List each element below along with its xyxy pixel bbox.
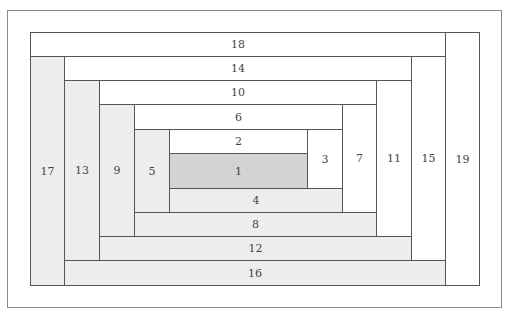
block-2: 2 [169, 129, 308, 154]
block-10: 10 [99, 80, 377, 105]
block-label: 6 [235, 111, 242, 124]
block-16: 16 [64, 260, 446, 286]
block-label: 7 [356, 152, 363, 165]
block-label: 3 [322, 153, 329, 166]
block-18: 18 [30, 32, 446, 57]
block-label: 18 [231, 38, 245, 51]
block-label: 10 [231, 86, 245, 99]
block-11: 11 [376, 80, 412, 237]
block-5: 5 [134, 129, 170, 213]
block-12: 12 [99, 236, 412, 261]
block-label: 9 [114, 164, 121, 177]
block-label: 8 [252, 218, 259, 231]
block-1: 1 [169, 153, 308, 189]
block-3: 3 [307, 129, 343, 189]
block-14: 14 [64, 56, 412, 81]
block-9: 9 [99, 104, 135, 237]
block-label: 17 [41, 165, 55, 178]
block-8: 8 [134, 212, 377, 237]
block-label: 14 [231, 62, 245, 75]
block-label: 1 [235, 165, 242, 178]
block-15: 15 [411, 56, 446, 261]
block-label: 16 [248, 267, 262, 280]
block-label: 12 [249, 242, 263, 255]
block-label: 2 [235, 135, 242, 148]
block-7: 7 [342, 104, 377, 213]
block-4: 4 [169, 188, 343, 213]
block-label: 15 [422, 152, 436, 165]
block-17: 17 [30, 56, 65, 286]
block-label: 19 [456, 153, 470, 166]
block-13: 13 [64, 80, 100, 261]
block-6: 6 [134, 104, 343, 130]
block-label: 13 [75, 164, 89, 177]
block-label: 4 [253, 194, 260, 207]
block-label: 5 [149, 165, 156, 178]
block-label: 11 [387, 152, 401, 165]
block-19: 19 [445, 32, 480, 286]
